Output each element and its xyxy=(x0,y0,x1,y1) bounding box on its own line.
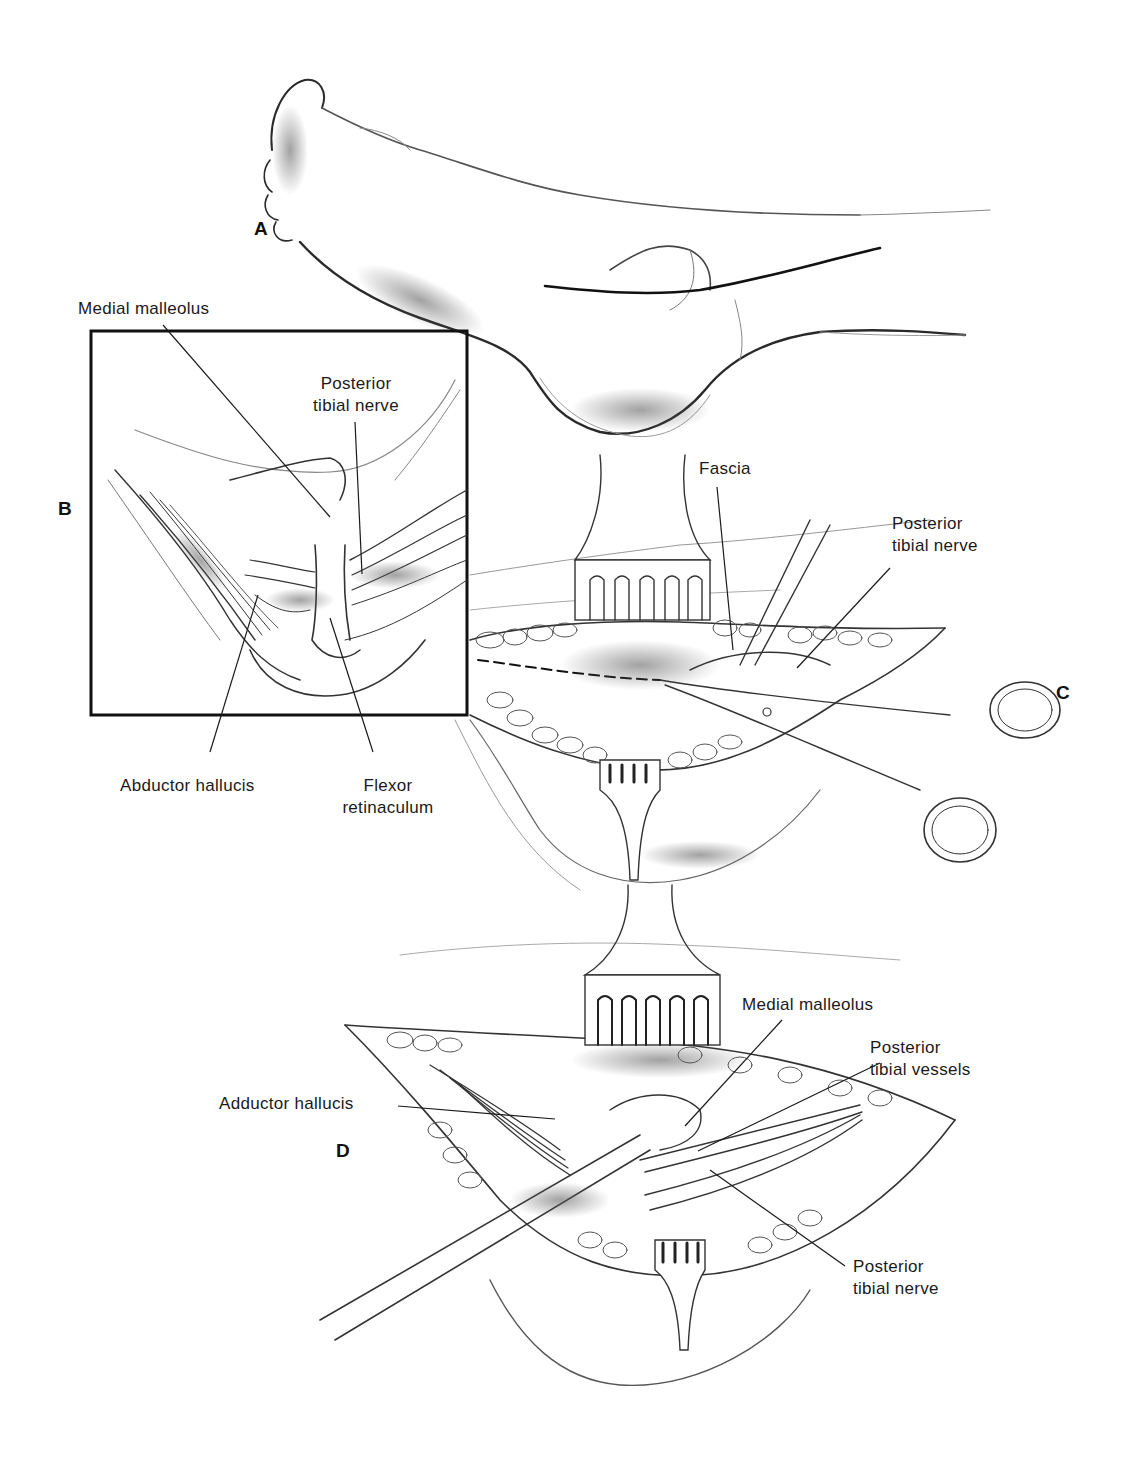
label-posterior-tibial-nerve-b: Posterior tibial nerve xyxy=(286,373,426,417)
label-line-2: retinaculum xyxy=(328,797,448,819)
label-medial-malleolus-b: Medial malleolus xyxy=(78,298,209,320)
panel-letter-d: D xyxy=(336,1140,350,1162)
label-line-1: Posterior xyxy=(870,1037,971,1059)
label-posterior-tibial-nerve-c: Posterior tibial nerve xyxy=(892,513,978,557)
label-line-1: Posterior xyxy=(853,1256,939,1278)
panel-d-exposure-drawing xyxy=(320,885,955,1385)
label-medial-malleolus-d: Medial malleolus xyxy=(742,994,873,1016)
panel-letter-a: A xyxy=(254,218,268,240)
label-line-2: tibial vessels xyxy=(870,1059,971,1081)
label-line-2: tibial nerve xyxy=(286,395,426,417)
label-posterior-tibial-vessels: Posterior tibial vessels xyxy=(870,1037,971,1081)
surgical-illustration xyxy=(0,0,1130,1472)
label-line-1: Posterior xyxy=(286,373,426,395)
label-adductor-hallucis: Adductor hallucis xyxy=(219,1093,354,1115)
label-flexor-retinaculum: Flexor retinaculum xyxy=(328,775,448,819)
label-posterior-tibial-nerve-d: Posterior tibial nerve xyxy=(853,1256,939,1300)
label-abductor-hallucis: Abductor hallucis xyxy=(120,775,255,797)
panel-letter-c: C xyxy=(1056,682,1070,704)
label-line-2: tibial nerve xyxy=(892,535,978,557)
label-fascia: Fascia xyxy=(699,458,751,480)
label-line-1: Flexor xyxy=(328,775,448,797)
label-line-2: tibial nerve xyxy=(853,1278,939,1300)
label-line-1: Posterior xyxy=(892,513,978,535)
panel-letter-b: B xyxy=(58,498,72,520)
